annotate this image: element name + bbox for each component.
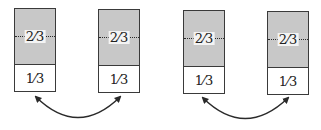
double-arrow-icon <box>36 97 120 118</box>
double-arrow-icon <box>203 98 288 119</box>
swap-arrows <box>0 0 321 130</box>
